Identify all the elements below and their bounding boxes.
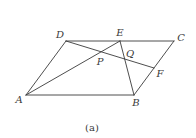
label-point-q: Q xyxy=(126,49,134,59)
label-point-d: D xyxy=(56,30,64,40)
parallelogram-diagram xyxy=(0,0,196,138)
figure-caption: (a) xyxy=(85,123,99,133)
label-point-e: E xyxy=(116,28,123,38)
segment-da xyxy=(26,41,66,95)
label-point-b: B xyxy=(132,98,139,108)
segment-ae xyxy=(26,41,120,95)
label-point-p: P xyxy=(97,57,104,67)
label-point-a: A xyxy=(15,95,22,105)
geometry-figure: A B C D E F P Q (a) xyxy=(0,0,196,138)
label-point-f: F xyxy=(157,69,164,79)
label-point-c: C xyxy=(177,33,185,43)
